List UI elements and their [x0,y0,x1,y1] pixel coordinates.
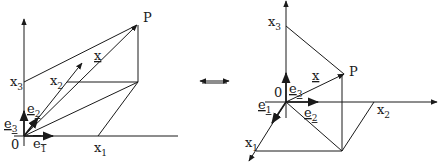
right-label-x3: x3 [268,14,281,32]
right-label-e2: e2 [304,105,317,123]
left-e2-vector [24,118,38,136]
left-label-x1: x1 [94,140,107,158]
right-diagram: P x x3 x2 x1 e3 e2 e1 0 [245,1,437,161]
right-label-e1: e1 [258,97,271,115]
left-label-x3: x3 [10,74,23,92]
left-label-origin: 0 [11,137,19,152]
left-label-e1: e1 [33,136,46,154]
left-vector-x [24,25,137,136]
right-proj-x3-P [286,26,344,74]
left-label-x: x [94,48,102,63]
left-proj-x3-P [24,25,137,82]
left-proj-origin-Q [24,82,138,136]
right-proj-x2-Q [342,102,374,151]
left-label-x2: x2 [50,73,63,91]
right-proj-origin-Q [286,102,342,151]
right-label-P: P [349,64,358,79]
equivalence-arrow [200,81,229,83]
right-label-x: x [312,68,320,83]
left-diagram: P x x3 x2 x1 e2 e3 e1 0 [4,10,178,158]
left-label-e2: e2 [27,101,40,119]
coordinate-diagram: P x x3 x2 x1 e2 e3 e1 0 P x x3 x2 [0,0,442,167]
left-label-P: P [143,10,152,25]
right-label-x2: x2 [377,102,390,120]
right-label-x1: x1 [245,135,258,153]
right-label-e3: e3 [289,81,303,99]
right-e1-vector [272,102,286,123]
left-label-e3: e3 [4,116,18,134]
right-label-origin: 0 [274,85,282,100]
left-proj-x1-Q [98,82,138,136]
